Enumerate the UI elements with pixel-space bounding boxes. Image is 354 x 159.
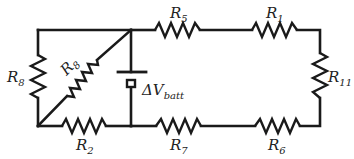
- resistor-r2: [38, 119, 131, 133]
- battery: [118, 30, 146, 126]
- label-r6: R6: [267, 136, 286, 156]
- label-battery: ΔVbatt: [141, 81, 185, 101]
- circuit-diagram: R8 R8 R2 R5 R1 R11 R7 R6 ΔVbatt: [0, 0, 354, 159]
- resistor-r8-diagonal: [38, 30, 131, 126]
- label-r8-diagonal: R8: [56, 54, 83, 81]
- label-r2: R2: [75, 136, 94, 156]
- resistor-r5: [131, 23, 252, 37]
- label-r7: R7: [169, 136, 188, 156]
- label-r1: R1: [265, 4, 284, 24]
- resistor-r6: [201, 119, 300, 133]
- resistor-r8-left: [31, 30, 45, 126]
- label-r5: R5: [169, 4, 188, 24]
- label-r8-left: R8: [6, 68, 25, 88]
- resistor-r7: [131, 119, 201, 133]
- resistor-r1: [252, 23, 320, 53]
- label-r11: R11: [327, 68, 352, 88]
- resistor-r11: [300, 53, 327, 126]
